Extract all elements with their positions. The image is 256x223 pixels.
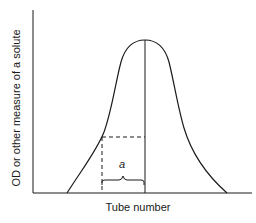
y-axis-label: OD or other measure of a solute: [10, 29, 22, 186]
diagram-canvas: [0, 0, 256, 223]
width-brace: [102, 176, 144, 185]
x-axis-label: Tube number: [0, 201, 256, 213]
peak-curve: [67, 40, 227, 193]
annotation-a: a: [119, 158, 125, 170]
